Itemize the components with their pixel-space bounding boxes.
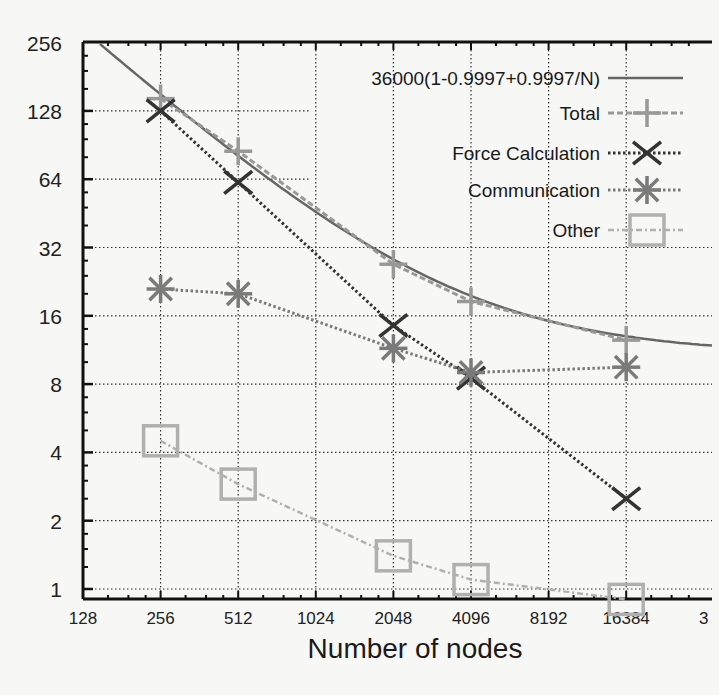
y-tick-label: 256 (27, 32, 62, 55)
y-tick-label: 64 (39, 168, 63, 191)
data-series (100, 44, 712, 614)
x-tick-label: 2048 (374, 609, 412, 628)
fit-curve (100, 44, 712, 346)
asterisk-marker-icon (379, 334, 407, 362)
asterisk-marker-icon (147, 275, 175, 303)
x-tick-label: 8192 (530, 609, 568, 628)
y-tick-label: 2 (50, 510, 62, 533)
plus-marker-icon (633, 99, 661, 127)
x-marker-icon (633, 142, 661, 164)
x-axis-label: Number of nodes (308, 633, 523, 664)
legend-label: Force Calculation (452, 143, 600, 164)
y-tick-label: 128 (27, 100, 62, 123)
scaling-chart: 1282565121024204840968192163843 12481632… (0, 0, 719, 695)
x-tick-label: 1024 (297, 609, 335, 628)
asterisk-marker-icon (612, 353, 640, 381)
x-tick-label: 3 (699, 609, 708, 628)
x-marker-icon (379, 314, 407, 336)
plus-marker-icon (612, 326, 640, 354)
y-axis-ticks: 1248163264128256 (27, 32, 62, 601)
series-line-force-calculation (161, 111, 627, 499)
y-tick-label: 16 (39, 305, 62, 328)
plus-marker-icon (224, 137, 252, 165)
y-tick-label: 32 (39, 237, 62, 260)
series-line-other (161, 441, 627, 600)
y-tick-label: 8 (50, 373, 62, 396)
legend-label: Communication (468, 180, 600, 201)
legend-label: 36000(1-0.9997+0.9997/N) (371, 68, 600, 89)
x-tick-label: 128 (69, 609, 97, 628)
legend-label: Other (552, 220, 600, 241)
x-tick-label: 256 (146, 609, 174, 628)
x-tick-label: 4096 (452, 609, 490, 628)
asterisk-marker-icon (457, 358, 485, 386)
y-tick-label: 4 (50, 441, 62, 464)
x-tick-label: 512 (224, 609, 252, 628)
asterisk-marker-icon (633, 176, 661, 204)
legend-label: Total (560, 103, 600, 124)
plus-marker-icon (147, 85, 175, 113)
asterisk-marker-icon (224, 280, 252, 308)
legend: 36000(1-0.9997+0.9997/N)TotalForce Calcu… (371, 68, 683, 245)
y-tick-label: 1 (50, 578, 62, 601)
x-axis-ticks: 1282565121024204840968192163843 (69, 609, 709, 628)
